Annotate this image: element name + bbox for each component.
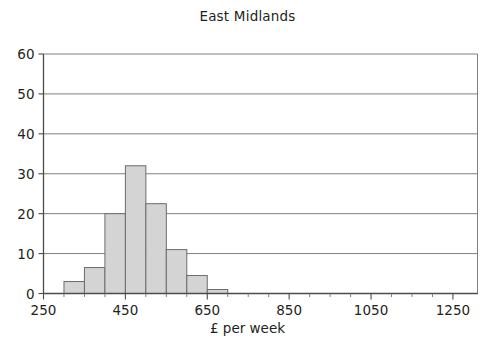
bar: [187, 276, 207, 294]
x-tick-label: 1050: [354, 302, 388, 318]
x-tick-label: 250: [31, 302, 57, 318]
y-tick-label: 30: [17, 166, 34, 182]
y-tick-label: 50: [17, 86, 34, 102]
x-tick-label: 650: [194, 302, 220, 318]
x-axis-ticks: 25045065085010501250: [31, 294, 471, 318]
x-tick-label: 850: [276, 302, 302, 318]
y-tick-label: 10: [17, 246, 34, 262]
bar: [84, 268, 104, 294]
bar: [166, 250, 186, 294]
x-tick-label: 450: [112, 302, 138, 318]
bars: [64, 166, 228, 294]
x-tick-label: 1250: [436, 302, 470, 318]
bar: [64, 282, 84, 294]
y-tick-label: 40: [17, 126, 34, 142]
y-tick-label: 60: [17, 46, 34, 62]
bar: [146, 204, 166, 294]
bar: [125, 166, 145, 294]
y-axis-ticks: 0102030405060: [17, 46, 43, 302]
bar: [105, 214, 125, 294]
y-tick-label: 20: [17, 206, 34, 222]
x-axis-title: £ per week: [0, 320, 495, 336]
histogram-chart: East Midlands 0102030405060 250450650850…: [0, 0, 495, 348]
plot-area: 0102030405060 25045065085010501250: [0, 0, 495, 348]
y-tick-label: 0: [26, 286, 35, 302]
